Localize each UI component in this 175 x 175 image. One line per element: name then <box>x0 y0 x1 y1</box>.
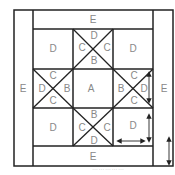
label-right-border: E <box>161 83 168 94</box>
quilt-diagram: E E E E D D D D A D C C B C D B C C B D … <box>0 0 175 175</box>
label-bottom-hg-top: B <box>91 109 98 120</box>
label-top-hg-right: C <box>103 42 110 53</box>
label-corner-top-left: D <box>49 43 56 54</box>
label-corner-bottom-left: D <box>49 122 56 133</box>
label-left-hg-bottom: C <box>49 95 56 106</box>
label-right-hg-top: C <box>130 70 137 81</box>
label-right-hg-left: B <box>118 83 125 94</box>
label-right-hg-bottom: C <box>130 95 137 106</box>
label-left-hg-left: D <box>38 83 45 94</box>
caption-text: …………… <box>92 165 125 171</box>
label-left-hg-right: B <box>64 83 71 94</box>
label-right-hg-right: D <box>140 83 147 94</box>
label-bottom-hg-right: C <box>103 122 110 133</box>
label-center: A <box>88 83 95 94</box>
label-top-hg-top: D <box>90 30 97 41</box>
label-top-border: E <box>90 14 97 25</box>
label-bottom-hg-bottom: D <box>90 135 97 146</box>
label-top-hg-bottom: B <box>91 55 98 66</box>
label-top-hg-left: C <box>78 42 85 53</box>
label-bottom-border: E <box>90 151 97 162</box>
label-left-border: E <box>20 83 27 94</box>
label-left-hg-top: C <box>49 70 56 81</box>
label-bottom-hg-left: C <box>78 122 85 133</box>
label-corner-top-right: D <box>129 43 136 54</box>
label-corner-bottom-right: D <box>129 120 136 131</box>
